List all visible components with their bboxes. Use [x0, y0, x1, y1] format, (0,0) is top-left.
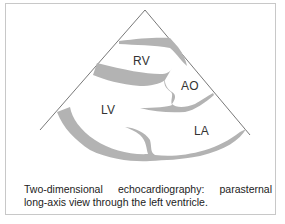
- label-ao: AO: [181, 79, 199, 93]
- label-rv: RV: [133, 54, 150, 68]
- caption-line-2: long-axis view through the left ventricl…: [24, 196, 272, 209]
- posterior-wall: [57, 107, 246, 161]
- caption-line-1: Two-dimensional echocardiography: parast…: [24, 183, 272, 196]
- caption-word-1: Two-dimensional: [24, 183, 103, 196]
- sector-left-edge: [40, 10, 145, 130]
- caption-word-2: echocardiography:: [118, 183, 204, 196]
- figure-caption: Two-dimensional echocardiography: parast…: [24, 183, 272, 209]
- label-lv: LV: [101, 103, 115, 117]
- rv-anterior-wall: [119, 38, 187, 66]
- caption-word-3: parasternal: [219, 183, 272, 196]
- label-la: LA: [194, 124, 209, 138]
- sector-right-edge: [145, 10, 250, 135]
